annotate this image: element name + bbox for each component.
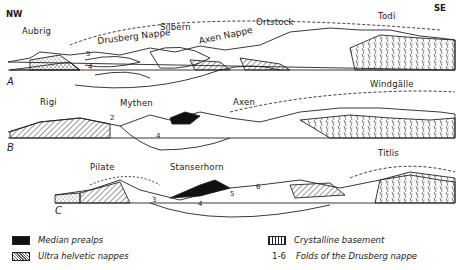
fold-number-5: 5: [86, 50, 91, 58]
black-swatch-icon: [12, 236, 30, 245]
direction-se: SE: [434, 3, 446, 13]
peak-titlis: Titlis: [378, 148, 399, 158]
peak-stanserhorn: Stanserhorn: [170, 162, 224, 172]
legend-median-prealps: Median prealps: [12, 235, 103, 245]
legend-crystalline-basement: Crystalline basement: [268, 235, 384, 245]
fold-number-4: 4: [88, 63, 93, 71]
fold-number-4: 4: [156, 132, 161, 140]
section-label-b: B: [7, 142, 14, 153]
legend-drusberg-folds: 1-6 Folds of the Drusberg nappe: [272, 251, 417, 261]
cross-section-drawing: [0, 0, 458, 270]
peak-mythen: Mythen: [120, 98, 153, 108]
peak-windgalle: Windgälle: [370, 79, 414, 89]
peak-todi: Todi: [378, 11, 396, 21]
crystalline-swatch-icon: [268, 236, 286, 245]
fold-number-5: 5: [230, 190, 235, 198]
legend-ultra-helvetic: Ultra helvetic nappes: [12, 251, 129, 261]
peak-axen: Axen: [233, 97, 255, 107]
section-label-a: A: [7, 76, 14, 87]
fold-number-6: 6: [256, 183, 261, 191]
peak-pilate: Pilate: [90, 162, 115, 172]
peak-rigi: Rigi: [40, 97, 57, 107]
peak-aubrig: Aubrig: [22, 26, 51, 36]
fold-number-4: 4: [198, 200, 203, 208]
section-c-profile: [55, 166, 455, 217]
fold-number-2: 2: [110, 114, 115, 122]
section-label-c: C: [55, 205, 62, 216]
fold-number-3: 3: [152, 196, 157, 204]
section-b-profile: [8, 91, 455, 150]
stipple-swatch-icon: [12, 252, 30, 261]
peak-ortstock: Ortstock: [256, 17, 294, 27]
direction-nw: NW: [6, 9, 23, 19]
